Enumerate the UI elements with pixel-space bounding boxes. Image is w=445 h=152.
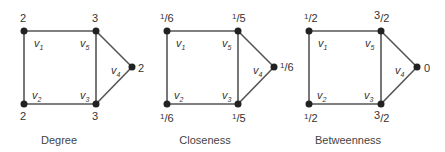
node-v3: [235, 101, 242, 108]
value-v3: 3/2: [374, 109, 389, 124]
vertex-label-v4: v4: [253, 64, 263, 78]
centrality-figure: v1 v5 v4 v2 v3 2 3 2 2 3 Degree v1 v5 v4…: [0, 0, 445, 152]
vertex-label-v1: v1: [176, 37, 186, 51]
node-v1: [306, 28, 313, 35]
edge-v5-v4: [381, 31, 417, 67]
value-v5: 3: [92, 12, 98, 24]
value-v4: 1/6: [280, 61, 294, 73]
value-v1: 1/6: [160, 12, 174, 24]
vertex-label-v3: v3: [80, 89, 90, 103]
node-v5: [378, 28, 385, 35]
value-v2: 2: [20, 110, 26, 122]
value-v4: 2: [138, 62, 144, 74]
vertex-label-v5: v5: [80, 37, 90, 51]
edge-v5-v4: [238, 31, 274, 67]
node-v4: [129, 64, 136, 71]
panel-closeness: v1 v5 v4 v2 v3 1/6 1/5 1/6 1/6 1/5 Close…: [160, 12, 294, 146]
value-v4: 0: [424, 62, 430, 74]
vertex-label-v3: v3: [222, 89, 232, 103]
panel-betweenness: v1 v5 v4 v2 v3 1/2 3/2 0 1/2 3/2 Between…: [304, 9, 430, 146]
node-v5: [93, 28, 100, 35]
caption-degree: Degree: [41, 134, 77, 146]
value-v3: 3: [92, 110, 98, 122]
vertex-label-v4: v4: [111, 64, 121, 78]
vertex-label-v4: v4: [395, 64, 405, 78]
node-v4: [414, 64, 421, 71]
vertex-label-v2: v2: [32, 89, 42, 103]
vertex-label-v3: v3: [364, 89, 374, 103]
vertex-label-v2: v2: [317, 89, 327, 103]
value-v3: 1/5: [232, 112, 246, 124]
caption-betweenness: Betweenness: [315, 134, 382, 146]
vertex-label-v5: v5: [222, 37, 232, 51]
value-v1: 2: [20, 12, 26, 24]
node-v3: [93, 101, 100, 108]
panel-degree: v1 v5 v4 v2 v3 2 3 2 2 3 Degree: [20, 12, 144, 146]
node-v5: [235, 28, 242, 35]
value-v1: 1/2: [304, 12, 318, 24]
value-v2: 1/6: [160, 112, 174, 124]
vertex-label-v1: v1: [318, 37, 328, 51]
vertex-label-v2: v2: [174, 89, 184, 103]
node-v4: [271, 64, 278, 71]
node-v1: [164, 28, 171, 35]
node-v3: [378, 101, 385, 108]
vertex-label-v5: v5: [365, 37, 375, 51]
caption-closeness: Closeness: [179, 134, 231, 146]
value-v2: 1/2: [304, 112, 318, 124]
value-v5: 3/2: [374, 9, 389, 24]
node-v2: [164, 101, 171, 108]
edge-v5-v4: [96, 31, 132, 67]
node-v2: [306, 101, 313, 108]
node-v2: [21, 101, 28, 108]
vertex-label-v1: v1: [34, 37, 44, 51]
node-v1: [21, 28, 28, 35]
value-v5: 1/5: [232, 12, 246, 24]
